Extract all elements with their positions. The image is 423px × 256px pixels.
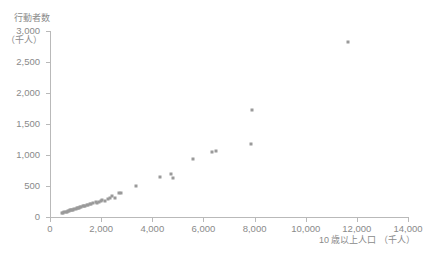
data-point [120,191,123,194]
y-tick-label: 0 [0,211,40,222]
data-point [114,196,117,199]
plot-area [50,31,408,217]
x-tick-mark [101,218,102,222]
x-tick-mark [306,218,307,222]
x-tick-label: 10,000 [291,223,320,234]
y-tick-label: 1,500 [0,118,40,129]
x-axis-line [50,217,409,218]
x-tick-mark [203,218,204,222]
x-tick-label: 8,000 [243,223,267,234]
data-point [109,197,112,200]
data-point [346,40,349,43]
x-tick-label: 6,000 [192,223,216,234]
x-tick-label: 4,000 [140,223,164,234]
data-point [170,172,173,175]
x-axis-title: 10 歳以上人口 （千人） [319,233,415,246]
data-point [211,150,214,153]
data-point [172,176,175,179]
x-tick-mark [50,218,51,222]
y-tick-label: 500 [0,180,40,191]
x-tick-label: 2,000 [89,223,113,234]
data-point [249,142,252,145]
x-tick-label: 0 [47,223,52,234]
y-tick-label: 2,000 [0,87,40,98]
y-tick-label: 3,000 [0,25,40,36]
y-axis-title-text: 行動者数 [14,13,50,23]
data-point [158,176,161,179]
data-point [251,109,254,112]
x-tick-mark [152,218,153,222]
y-axis-title-unit: （千人） [4,35,50,46]
data-point [215,150,218,153]
y-tick-label: 1,000 [0,149,40,160]
data-point [192,158,195,161]
data-point [134,185,137,188]
x-tick-mark [357,218,358,222]
x-tick-mark [408,218,409,222]
x-tick-mark [255,218,256,222]
y-tick-label: 2,500 [0,56,40,67]
